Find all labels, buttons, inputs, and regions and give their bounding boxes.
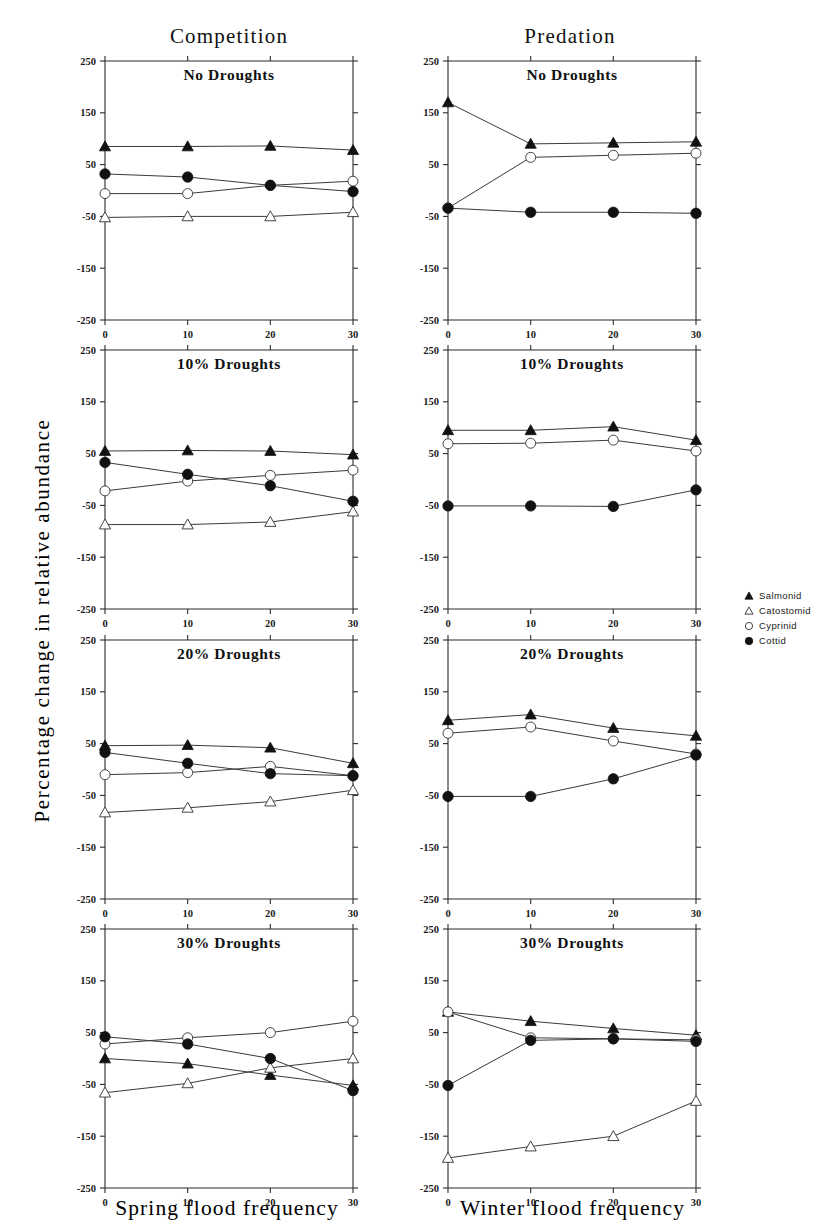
y-tick-label: 50 xyxy=(86,738,97,749)
open-triangle-marker xyxy=(99,519,110,529)
open-circle-marker xyxy=(100,486,110,496)
y-tick-label: -50 xyxy=(425,790,439,801)
y-tick-label: -250 xyxy=(420,315,439,326)
filled-triangle-marker xyxy=(442,97,453,107)
filled-circle-marker xyxy=(443,791,453,801)
open-circle-marker xyxy=(183,189,193,199)
y-tick-label: -250 xyxy=(77,315,96,326)
legend-item-salmonid: Salmonid xyxy=(742,588,811,603)
filled-circle-marker xyxy=(265,481,275,491)
filled-circle-icon xyxy=(742,634,756,648)
y-tick-label: 150 xyxy=(423,686,439,697)
panel-competition-10-droughts: 25015050-50-150-250010203010% Droughts xyxy=(60,340,367,639)
y-axis-label: Percentage change in relative abundance xyxy=(30,311,55,931)
open-circle-marker xyxy=(443,439,453,449)
open-circle-marker xyxy=(348,465,358,475)
filled-triangle-marker xyxy=(525,138,536,148)
filled-triangle-marker xyxy=(608,137,619,147)
x-tick-label: 0 xyxy=(445,329,450,340)
x-tick-label: 20 xyxy=(265,1197,276,1208)
x-tick-label: 20 xyxy=(265,618,276,629)
panel-title: 20% Droughts xyxy=(177,645,281,662)
y-tick-label: -50 xyxy=(82,500,96,511)
legend-item-label: Salmonid xyxy=(759,590,802,601)
y-tick-label: 50 xyxy=(86,448,97,459)
panel-title: 20% Droughts xyxy=(520,645,624,662)
open-circle-marker xyxy=(608,736,618,746)
filled-circle-marker xyxy=(265,768,275,778)
filled-circle-marker xyxy=(443,501,453,511)
y-tick-label: 250 xyxy=(423,56,439,67)
open-triangle-marker xyxy=(347,506,358,516)
y-tick-label: -250 xyxy=(77,894,96,905)
series-salmonid xyxy=(442,421,701,444)
open-circle-marker xyxy=(348,176,358,186)
filled-circle-marker xyxy=(443,203,453,213)
series-salmonid xyxy=(442,97,701,148)
panel-predation-30-droughts: 25015050-50-150-250010203030% Droughts xyxy=(403,919,710,1218)
panel-competition-20-droughts: 25015050-50-150-250010203020% Droughts xyxy=(60,630,367,929)
y-tick-label: 150 xyxy=(80,107,96,118)
x-tick-label: 30 xyxy=(348,329,359,340)
x-tick-label: 10 xyxy=(525,618,536,629)
x-tick-label: 20 xyxy=(608,1197,619,1208)
legend-item-label: Cottid xyxy=(759,635,786,646)
y-tick-label: 250 xyxy=(80,924,96,935)
x-tick-label: 20 xyxy=(265,908,276,919)
plot-frame xyxy=(448,929,696,1188)
x-tick-label: 20 xyxy=(608,618,619,629)
legend-item-cyprinid: Cyprinid xyxy=(742,618,811,633)
legend-item-cottid: Cottid xyxy=(742,633,811,648)
open-circle-marker xyxy=(100,770,110,780)
open-circle-marker xyxy=(443,1007,453,1017)
x-tick-label: 0 xyxy=(102,618,107,629)
panel-predation-10-droughts: 25015050-50-150-250010203010% Droughts xyxy=(403,340,710,639)
series-cyprinid xyxy=(100,465,358,496)
x-tick-label: 10 xyxy=(525,1197,536,1208)
plot-frame xyxy=(105,929,353,1188)
x-tick-label: 30 xyxy=(348,908,359,919)
series-salmonid xyxy=(99,445,358,459)
x-tick-label: 20 xyxy=(608,329,619,340)
filled-circle-marker xyxy=(608,207,618,217)
y-tick-label: -250 xyxy=(77,1183,96,1194)
open-triangle-marker xyxy=(182,211,193,221)
filled-circle-marker xyxy=(691,1036,701,1046)
filled-triangle-marker xyxy=(182,740,193,750)
legend-item-label: Catostomid xyxy=(759,605,811,616)
filled-triangle-marker xyxy=(182,445,193,455)
y-tick-label: -150 xyxy=(420,263,439,274)
series-catostomid xyxy=(99,207,358,222)
y-tick-label: 50 xyxy=(86,159,97,170)
y-tick-label: 150 xyxy=(423,975,439,986)
series-cyprinid xyxy=(443,435,701,456)
filled-circle-marker xyxy=(608,774,618,784)
series-cottid xyxy=(443,203,701,219)
x-tick-label: 0 xyxy=(102,1197,107,1208)
filled-circle-marker xyxy=(182,469,192,479)
filled-triangle-icon xyxy=(742,589,756,603)
x-tick-label: 10 xyxy=(182,1197,193,1208)
panel-competition-no-droughts: 25015050-50-150-2500102030No Droughts xyxy=(60,51,367,350)
open-triangle-marker xyxy=(347,1053,358,1063)
panel-competition-30-droughts: 25015050-50-150-250010203030% Droughts xyxy=(60,919,367,1218)
filled-triangle-marker xyxy=(99,141,110,151)
open-circle-marker xyxy=(691,148,701,158)
y-tick-label: 50 xyxy=(86,1027,97,1038)
y-tick-label: -50 xyxy=(425,1079,439,1090)
series-cyprinid xyxy=(443,148,701,213)
open-circle-marker xyxy=(265,1028,275,1038)
x-tick-label: 30 xyxy=(691,618,702,629)
x-tick-label: 20 xyxy=(608,908,619,919)
filled-circle-marker xyxy=(348,186,358,196)
filled-triangle-marker xyxy=(608,421,619,431)
open-triangle-marker xyxy=(690,1095,701,1105)
y-tick-label: 250 xyxy=(80,345,96,356)
filled-circle-marker xyxy=(100,457,110,467)
y-tick-label: -150 xyxy=(77,552,96,563)
y-tick-label: -50 xyxy=(82,1079,96,1090)
plot-frame xyxy=(105,350,353,609)
figure-root: Competition Predation Percentage change … xyxy=(0,0,839,1232)
y-tick-label: 250 xyxy=(423,345,439,356)
open-circle-marker xyxy=(265,470,275,480)
